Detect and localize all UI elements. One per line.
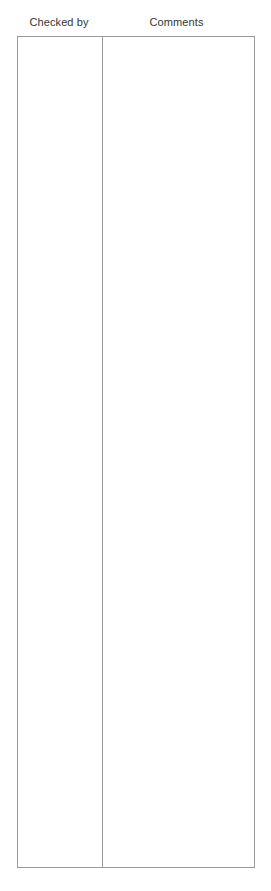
checked-by-comments-table <box>17 36 255 868</box>
cell-comments[interactable] <box>103 37 255 868</box>
column-header-comments: Comments <box>101 15 252 29</box>
page-root: Checked by Comments <box>0 0 271 891</box>
cell-checked-by[interactable] <box>18 37 103 868</box>
table-body <box>18 37 255 868</box>
column-header-checked-by: Checked by <box>17 15 101 29</box>
table-column-headers: Checked by Comments <box>17 13 252 31</box>
table-container <box>17 36 252 868</box>
table-row <box>18 37 255 868</box>
